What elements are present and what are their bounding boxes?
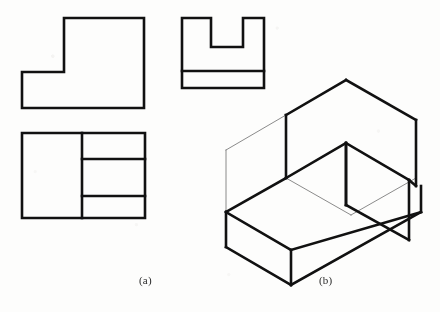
box-hidden-diagonal — [286, 178, 351, 215]
ledge-front-top — [226, 178, 286, 212]
caption-a: (a) — [139, 274, 152, 286]
object-lines-group — [22, 18, 421, 285]
slot-inner-right-wall — [346, 143, 409, 180]
construction-lines-group — [226, 80, 416, 250]
box-top-rear-left — [226, 115, 286, 150]
technical-drawing-canvas — [0, 0, 440, 312]
top-ridge-upper — [346, 80, 416, 120]
top-view-rectangle — [22, 133, 145, 218]
side-view-U-shape — [182, 18, 264, 88]
box-hidden-right — [351, 178, 416, 215]
ledge-front-right — [291, 212, 421, 250]
base-front-lower-left — [226, 247, 291, 285]
rib-right-bottom — [346, 205, 409, 240]
ledge-front-middle — [226, 212, 291, 250]
caption-b: (b) — [319, 274, 332, 286]
top-rear-left-edge — [286, 80, 346, 115]
front-view-L-shape — [22, 18, 144, 108]
base-front-lower-right — [291, 212, 421, 285]
slot-inner-floor-left — [286, 143, 346, 178]
figure-page: (a) (b) — [0, 0, 440, 312]
